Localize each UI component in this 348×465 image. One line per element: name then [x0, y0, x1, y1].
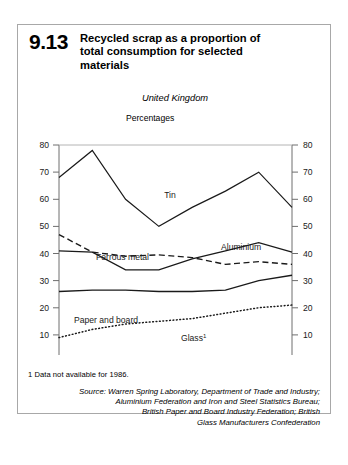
- figure-container: 9.13 Recycled scrap as a proportion of t…: [17, 24, 331, 414]
- y-tick-label: 60: [39, 194, 49, 204]
- y-axis-right-ticks: [292, 145, 298, 355]
- title-block: 9.13 Recycled scrap as a proportion of t…: [18, 25, 332, 87]
- series-label-glass-text: Glass: [181, 333, 203, 343]
- y-tick-label: 30: [39, 276, 49, 286]
- source-note: Source: Warren Spring Laboratory, Depart…: [52, 387, 320, 428]
- series-label-ferrous: Ferrous metal: [96, 252, 149, 262]
- source-line-1: Source: Warren Spring Laboratory, Depart…: [52, 387, 320, 397]
- source-line-2: Aluminium Federation and Iron and Steel …: [52, 397, 320, 407]
- y-axis-left-ticks: [53, 145, 59, 355]
- y-tick-label: 80: [303, 140, 313, 150]
- y-tick-label: 60: [303, 194, 313, 204]
- series-label-glass: Glass1: [181, 333, 207, 344]
- y-tick-label: 30: [303, 276, 313, 286]
- series-line-paper: [59, 275, 292, 291]
- y-tick-label: 70: [303, 167, 313, 177]
- footnote: 1 Data not available for 1986.: [28, 370, 129, 379]
- series-label-paper: Paper and board: [74, 315, 138, 325]
- y-tick-label: 10: [303, 330, 313, 340]
- series-label-aluminium: Aluminium: [221, 242, 261, 252]
- glass-footnote-mark: 1: [203, 333, 207, 339]
- y-tick-label: 10: [39, 330, 49, 340]
- y-axis-left-labels: 80 70 60 50 40 30 20 10 0: [39, 140, 49, 355]
- y-tick-label: 20: [39, 303, 49, 313]
- page-title: Recycled scrap as a proportion of total …: [80, 32, 318, 72]
- chart-svg: 80 70 60 50 40 30 20 10 0 80 70 60 50 40: [18, 105, 332, 355]
- figure-number: 9.13: [29, 31, 68, 52]
- title-line-1: Recycled scrap as a proportion of: [80, 32, 318, 45]
- region-subtitle: United Kingdom: [18, 93, 332, 103]
- y-tick-label: 50: [303, 221, 313, 231]
- figure-page: 9.13 Recycled scrap as a proportion of t…: [0, 0, 348, 465]
- series-line-tin: [59, 150, 292, 226]
- y-axis-right-labels: 80 70 60 50 40 30 20 10 0: [303, 140, 313, 355]
- y-tick-label: 40: [39, 249, 49, 259]
- y-tick-label: 50: [39, 221, 49, 231]
- title-line-3: materials: [80, 59, 318, 72]
- source-line-3: British Paper and Board Industry Federat…: [52, 407, 320, 417]
- y-tick-label: 20: [303, 303, 313, 313]
- y-tick-label: 80: [39, 140, 49, 150]
- title-line-2: total consumption for selected: [80, 45, 318, 58]
- series-label-tin: Tin: [164, 190, 176, 200]
- y-tick-label: 70: [39, 167, 49, 177]
- line-chart: 80 70 60 50 40 30 20 10 0 80 70 60 50 40: [18, 105, 332, 355]
- y-tick-label: 40: [303, 249, 313, 259]
- source-line-4: Glass Manufacturers Confederation: [52, 418, 320, 428]
